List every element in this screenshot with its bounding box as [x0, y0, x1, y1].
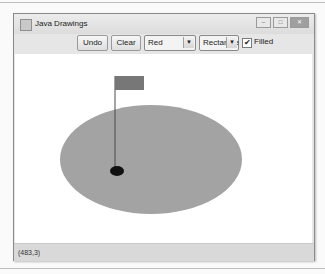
toolbar: Undo Clear Red ▼ Rectangle ▼ ✔ Filled — [14, 34, 314, 53]
undo-button[interactable]: Undo — [77, 35, 108, 51]
page-border-top — [0, 2, 325, 3]
green-oval — [60, 105, 242, 214]
chevron-down-icon[interactable]: ▼ — [226, 37, 237, 48]
title-bar[interactable]: Java Drawings – □ ✕ — [14, 14, 314, 34]
drawing-canvas[interactable] — [15, 54, 312, 244]
filled-checkbox[interactable]: ✔ — [242, 38, 252, 48]
page-border-bottom — [0, 268, 325, 269]
java-app-icon — [20, 19, 32, 31]
drawing-surface — [15, 54, 312, 244]
status-bar: (483,3) — [14, 243, 314, 261]
chevron-down-icon[interactable]: ▼ — [183, 37, 194, 48]
shape-select[interactable]: Rectangle ▼ — [199, 35, 239, 51]
color-select[interactable]: Red ▼ — [144, 35, 196, 51]
clear-button[interactable]: Clear — [111, 35, 141, 51]
hole-oval — [110, 166, 124, 176]
mouse-coordinates: (483,3) — [18, 249, 40, 256]
filled-label[interactable]: Filled — [254, 37, 273, 46]
minimize-button[interactable]: – — [256, 17, 271, 28]
window-title: Java Drawings — [35, 19, 87, 28]
maximize-button[interactable]: □ — [273, 17, 288, 28]
color-select-value: Red — [148, 36, 163, 50]
app-window: Java Drawings – □ ✕ Undo Clear Red ▼ Rec… — [13, 13, 315, 261]
close-button[interactable]: ✕ — [290, 17, 309, 28]
window-controls: – □ ✕ — [256, 17, 309, 28]
flag-rectangle — [115, 76, 144, 90]
